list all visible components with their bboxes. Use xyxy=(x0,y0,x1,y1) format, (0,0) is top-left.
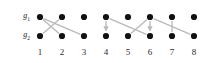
graph-node xyxy=(37,33,43,39)
column-label-6: 6 xyxy=(144,47,156,57)
row-label-g1: g1 xyxy=(12,11,30,22)
column-label-2: 2 xyxy=(56,47,68,57)
edge-layer xyxy=(43,19,190,35)
row-label-subscript: 1 xyxy=(27,16,30,22)
column-label-8: 8 xyxy=(188,47,200,57)
column-label-7: 7 xyxy=(166,47,178,57)
graph-edge xyxy=(44,19,81,35)
column-label-3: 3 xyxy=(78,47,90,57)
bipartite-graph-figure: g1g2 12345678 xyxy=(0,0,213,63)
column-label-5: 5 xyxy=(122,47,134,57)
graph-node xyxy=(59,33,65,39)
graph-edge xyxy=(110,19,147,35)
column-label-4: 4 xyxy=(100,47,112,57)
graph-node xyxy=(59,14,65,20)
graph-node xyxy=(37,14,43,20)
graph-node xyxy=(191,14,197,20)
graph-node xyxy=(103,14,109,20)
graph-node xyxy=(191,33,197,39)
column-label-1: 1 xyxy=(34,47,46,57)
graph-node xyxy=(169,33,175,39)
graph-node xyxy=(169,14,175,20)
graph-node xyxy=(125,33,131,39)
graph-node xyxy=(81,14,87,20)
graph-node xyxy=(125,14,131,20)
graph-node xyxy=(147,33,153,39)
row-label-g2: g2 xyxy=(12,30,30,41)
graph-node xyxy=(103,33,109,39)
graph-node xyxy=(147,14,153,20)
graph-node xyxy=(81,33,87,39)
row-label-subscript: 2 xyxy=(27,35,30,41)
